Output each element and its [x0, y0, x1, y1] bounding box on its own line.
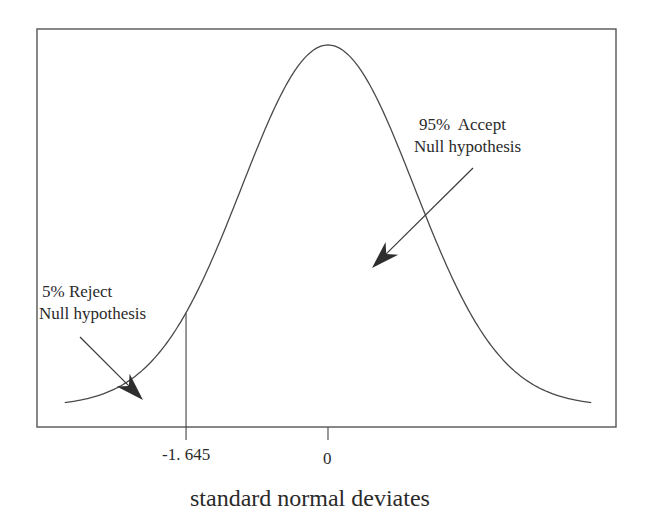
accept-annotation-line2: Null hypothesis — [414, 136, 521, 158]
normal-distribution-chart — [0, 0, 648, 526]
plot-frame — [37, 29, 616, 427]
reject-annotation-line2: Null hypothesis — [39, 303, 146, 325]
accept-arrow-icon — [372, 168, 473, 268]
reject-annotation: 5% Reject Null hypothesis — [39, 281, 146, 325]
x-axis-title: standard normal deviates — [190, 486, 430, 510]
reject-arrow-shaft — [80, 337, 129, 386]
accept-annotation-line1: 95% Accept — [414, 114, 521, 136]
normal-curve — [65, 45, 591, 403]
reject-annotation-line1: 5% Reject — [39, 281, 146, 303]
tick-label-critical: -1. 645 — [162, 446, 210, 463]
accept-arrow-shaft — [386, 168, 473, 254]
tick-label-zero: 0 — [323, 450, 332, 467]
accept-annotation: 95% Accept Null hypothesis — [414, 114, 521, 158]
